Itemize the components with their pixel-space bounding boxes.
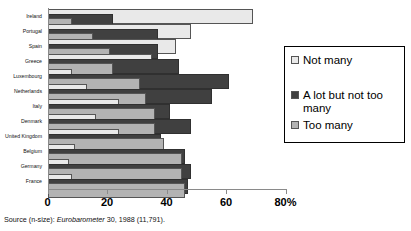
source-note-suffix: 30, 1988 (11,791). [105, 215, 165, 224]
x-axis-tick [226, 189, 227, 194]
bar-group [48, 144, 286, 159]
bar-group-bars [48, 9, 286, 24]
x-axis-tick-labels: 020406080% [0, 196, 300, 212]
y-axis-label: Belgium [0, 144, 45, 159]
legend-swatch-a-lot-but-not-too-many-icon [291, 91, 299, 99]
legend-item-not-many: Not many [291, 54, 352, 67]
bar-groups [48, 9, 286, 189]
bar-group [48, 129, 286, 144]
x-axis-tick [48, 189, 49, 194]
legend-label-not-many: Not many [303, 54, 352, 67]
bar-group-bars [48, 54, 286, 69]
x-axis-tick-label: 40 [160, 196, 172, 208]
y-axis-label: France [0, 174, 45, 189]
bar-group-bars [48, 39, 286, 54]
y-axis-label: United Kingdom [0, 129, 45, 144]
bar-group-bars [48, 144, 286, 159]
bar-group [48, 24, 286, 39]
y-axis-label: Germany [0, 159, 45, 174]
bar-group [48, 9, 286, 24]
chart-legend: Not many A lot but not too many Too many [284, 46, 405, 143]
y-axis-label: Portugal [0, 24, 45, 39]
x-axis-tick-label: 20 [101, 196, 113, 208]
bar-group [48, 39, 286, 54]
y-axis-line [48, 8, 49, 190]
bar-group [48, 114, 286, 129]
y-axis-label: Luxembourg [0, 69, 45, 84]
y-axis-label: Denmark [0, 114, 45, 129]
legend-label-too-many: Too many [303, 119, 353, 132]
x-axis-tick [107, 189, 108, 194]
plot-area: IrelandPortugalSpainGreeceLuxembourgNeth… [0, 0, 290, 231]
legend-swatch-not-many-icon [291, 56, 299, 64]
chart-container: IrelandPortugalSpainGreeceLuxembourgNeth… [0, 0, 411, 231]
source-note-publication: Eurobarometer [57, 215, 105, 224]
source-note-prefix: Source (n-size): [4, 215, 57, 224]
legend-item-a-lot-but-not-too-many: A lot but not too many [291, 89, 403, 115]
y-axis-label: Spain [0, 39, 45, 54]
x-axis-tick-label: 80% [274, 196, 296, 208]
bar-group-bars [48, 24, 286, 39]
bar-group-bars [48, 99, 286, 114]
bar-group [48, 99, 286, 114]
legend-item-too-many: Too many [291, 119, 353, 132]
bar-group-bars [48, 159, 286, 174]
x-axis-tick [167, 189, 168, 194]
bar-group-bars [48, 174, 286, 189]
y-axis-label: Italy [0, 99, 45, 114]
legend-label-a-lot-but-not-too-many: A lot but not too many [303, 89, 403, 115]
bar-group-bars [48, 114, 286, 129]
source-note: Source (n-size): Eurobarometer 30, 1988 … [4, 215, 165, 224]
bar-group-bars [48, 84, 286, 99]
bar-group [48, 69, 286, 84]
bar-group-bars [48, 69, 286, 84]
y-axis-labels: IrelandPortugalSpainGreeceLuxembourgNeth… [0, 9, 45, 189]
bar-group-bars [48, 129, 286, 144]
y-axis-label: Ireland [0, 9, 45, 24]
y-axis-label: Greece [0, 54, 45, 69]
x-axis-tick [286, 189, 287, 194]
bar-group [48, 159, 286, 174]
bar-group [48, 54, 286, 69]
legend-swatch-too-many-icon [291, 121, 299, 129]
bar-group [48, 84, 286, 99]
x-axis-tick-label: 60 [220, 196, 232, 208]
y-axis-label: Netherlands [0, 84, 45, 99]
x-axis-tick-label: 0 [44, 196, 50, 208]
bar-group [48, 174, 286, 189]
